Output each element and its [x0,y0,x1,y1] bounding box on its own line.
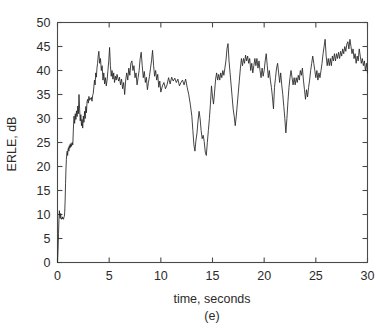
y-tick-label: 15 [37,184,51,198]
subfigure-label: (e) [204,309,219,323]
y-tick-label: 10 [37,208,51,222]
x-tick-label: 10 [154,269,168,283]
y-tick-label: 50 [37,16,51,30]
x-tick-label: 5 [106,269,113,283]
y-tick-label: 40 [37,64,51,78]
y-tick-label: 5 [44,232,51,246]
y-tick-label: 45 [37,40,51,54]
y-tick-label: 20 [37,160,51,174]
y-tick-label: 0 [44,256,51,270]
x-axis-label: time, seconds [173,292,250,306]
x-tick-label: 0 [54,269,61,283]
erle-convergence-chart: 05101520253035404550 051015202530 time, … [0,0,390,327]
y-axis-label: ERLE, dB [5,117,19,172]
x-tick-label: 30 [361,269,375,283]
chart-canvas: 05101520253035404550 051015202530 time, … [0,0,390,327]
y-tick-label: 25 [37,136,51,150]
x-tick-label: 15 [206,269,220,283]
x-tick-label: 25 [309,269,323,283]
y-tick-label: 35 [37,88,51,102]
x-tick-label: 20 [257,269,271,283]
y-tick-label: 30 [37,112,51,126]
